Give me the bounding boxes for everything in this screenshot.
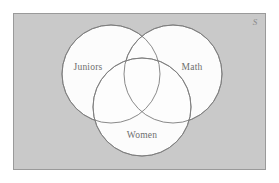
venn-diagram-figure: Juniors Math Women S — [0, 0, 279, 183]
set-label-women: Women — [127, 130, 157, 140]
venn-diagram-canvas: Juniors Math Women S — [0, 0, 279, 183]
set-circle-women — [93, 58, 191, 156]
universal-set-label: S — [253, 17, 258, 27]
set-label-juniors: Juniors — [74, 62, 103, 72]
set-label-math: Math — [182, 62, 203, 72]
